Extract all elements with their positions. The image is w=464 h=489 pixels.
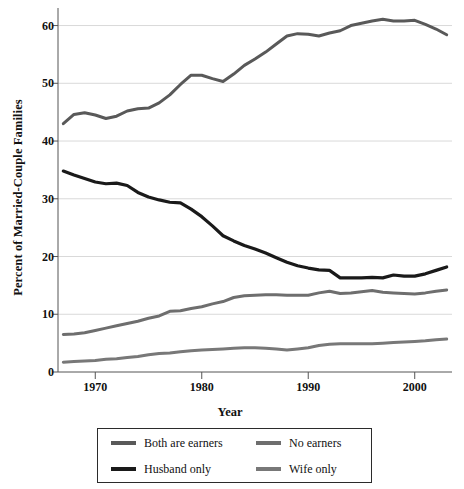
x-tick-label: 1980 [172, 380, 232, 395]
legend-swatch-both-are-earners [111, 441, 136, 445]
y-tick-label: 40 [28, 135, 54, 147]
legend-label-no-earners: No earners [289, 437, 341, 449]
legend-item-no-earners: No earners [243, 429, 373, 456]
legend-swatch-no-earners [256, 441, 281, 445]
legend-label-husband-only: Husband only [144, 463, 211, 475]
x-tick-label: 1970 [65, 380, 125, 395]
x-tick-label: 1990 [278, 380, 338, 395]
x-tick-label: 2000 [385, 380, 445, 395]
y-tick-label: 10 [28, 308, 54, 320]
chart-figure: Percent of Married-Couple Families 01020… [0, 0, 464, 489]
legend-label-both-are-earners: Both are earners [144, 437, 223, 449]
chart-legend: Both are earners No earners Husband only… [97, 428, 372, 483]
legend-item-husband-only: Husband only [98, 456, 243, 482]
legend-item-both-are-earners: Both are earners [98, 429, 243, 456]
y-tick-label: 50 [28, 77, 54, 89]
y-tick-label: 30 [28, 193, 54, 205]
legend-label-wife-only: Wife only [289, 463, 337, 475]
x-axis-label: Year [150, 405, 310, 420]
y-tick-label: 20 [28, 251, 54, 263]
legend-swatch-wife-only [256, 467, 281, 471]
y-tick-label: 0 [28, 366, 54, 378]
legend-item-wife-only: Wife only [243, 456, 373, 482]
legend-swatch-husband-only [111, 467, 136, 471]
y-tick-label: 60 [28, 20, 54, 32]
